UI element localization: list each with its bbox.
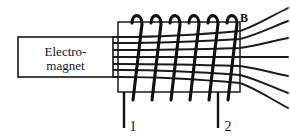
electromagnet-label-line1: Electro- (45, 44, 87, 59)
diagram-canvas: Electro- magnet B 12 (0, 0, 290, 140)
terminal-label-2: 2 (225, 119, 232, 134)
terminal-label-1: 1 (130, 119, 137, 134)
electromagnet-field-diagram: Electro- magnet B 12 (0, 0, 290, 140)
magnetic-field-label-b: B (240, 11, 248, 25)
electromagnet-label-line2: magnet (46, 58, 85, 73)
